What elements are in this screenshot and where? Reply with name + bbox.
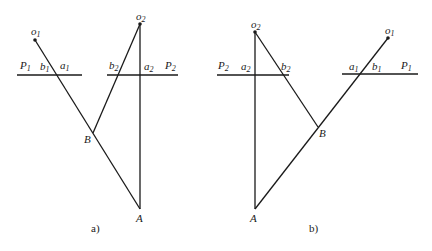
label-P2-b: P2 [217,59,229,73]
label-B-b: B [319,127,326,139]
label-o1-a: o1 [31,25,41,39]
figure-b: o2 o1 P2 a2 b2 a1 b1 P1 B A b) [217,18,418,235]
label-P2-a: P2 [164,59,176,73]
ray-o2-to-B-a [93,24,140,133]
label-b1-b: b1 [372,60,382,74]
label-a2-b: a2 [241,60,251,74]
ray-o2-to-B-b [255,32,318,127]
label-b2-a: b2 [109,59,119,73]
label-b2-b: b2 [281,60,291,74]
label-P1-b: P1 [400,59,412,73]
label-a2-a: a2 [144,60,154,74]
caption-b: b) [309,222,319,235]
figure-a: o1 o2 P1 b1 a1 b2 a2 P2 B A a) [17,10,178,235]
ray-o1-to-A-b [255,38,388,209]
label-o2-a: o2 [136,10,146,24]
label-A-a: A [135,212,143,224]
ray-o1-to-A-a [35,40,140,209]
point-o1-b [386,36,390,40]
label-B-a: B [84,133,91,145]
label-o2-b: o2 [251,18,261,32]
label-o1-b: o1 [385,24,395,38]
caption-a: a) [91,222,100,235]
label-A-b: A [249,212,257,224]
label-P1-a: P1 [19,59,31,73]
label-a1-a: a1 [60,59,70,73]
label-a1-b: a1 [349,60,359,74]
diagram-canvas: o1 o2 P1 b1 a1 b2 a2 P2 B A a) o2 o1 P2 … [0,0,432,251]
